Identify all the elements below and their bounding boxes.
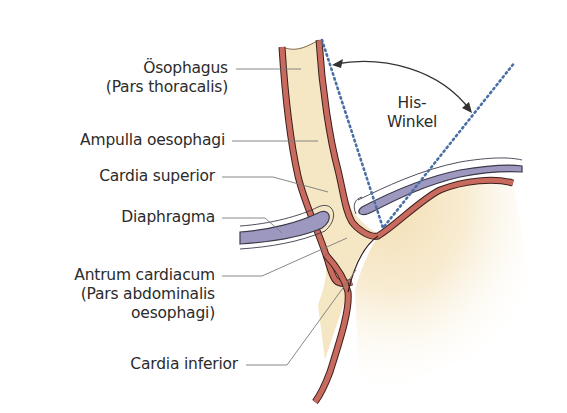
label-antrum-line1: Antrum cardiacum: [30, 266, 215, 285]
stomach-fundus: [355, 180, 540, 400]
label-his-winkel: His- Winkel: [372, 94, 452, 132]
label-oesophagus-line1: Ösophagus: [90, 59, 228, 78]
label-cardia-inferior: Cardia inferior: [80, 355, 238, 374]
label-oesophagus-line2: (Pars thoracalis): [90, 78, 228, 97]
label-his-line2: Winkel: [372, 113, 452, 132]
arrowhead-right-icon: [462, 102, 472, 113]
label-antrum-line3: oesophagi): [30, 304, 215, 323]
his-angle-diagram: Ösophagus (Pars thoracalis) Ampulla oeso…: [0, 0, 567, 413]
label-oesophagus: Ösophagus (Pars thoracalis): [90, 59, 228, 97]
label-cardia-superior: Cardia superior: [50, 167, 215, 186]
label-his-line1: His-: [372, 94, 452, 113]
arrowhead-left-icon: [332, 59, 343, 68]
label-antrum-line2: (Pars abdominalis: [30, 285, 215, 304]
label-diaphragma: Diaphragma: [80, 208, 215, 227]
diaphragm-left: [240, 211, 329, 244]
anatomy-illustration: [0, 0, 567, 413]
label-antrum-cardiacum: Antrum cardiacum (Pars abdominalis oesop…: [30, 266, 215, 323]
label-ampulla: Ampulla oesophagi: [30, 131, 225, 150]
